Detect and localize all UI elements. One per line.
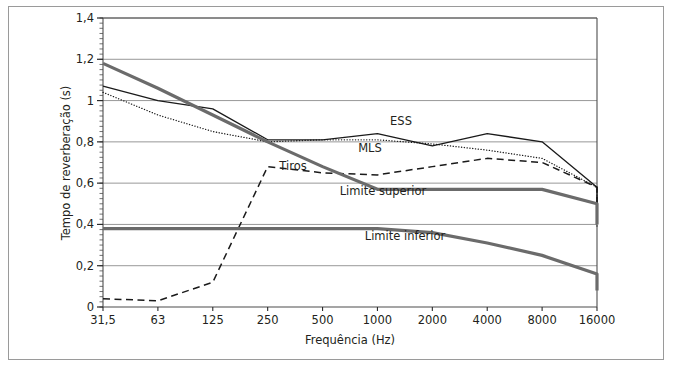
x-tick-label: 500 xyxy=(312,313,334,327)
chart-svg: 00,20,40,60,811,21,4 31,5631252505001000… xyxy=(0,0,674,368)
series-annotations: ESSMLSTirosLimite superiorLimite inferio… xyxy=(278,114,445,243)
x-tick-label: 16000 xyxy=(579,313,616,327)
x-axis-tick-labels: 31,563125250500100020004000800016000 xyxy=(90,313,615,327)
x-tick-label: 2000 xyxy=(418,313,447,327)
x-tick-label: 31,5 xyxy=(90,313,116,327)
series-lines xyxy=(103,63,597,300)
reverberation-time-chart: 00,20,40,60,811,21,4 31,5631252505001000… xyxy=(0,0,674,368)
y-axis-tick-labels: 00,20,40,60,811,21,4 xyxy=(76,11,94,314)
x-tick-label: 125 xyxy=(202,313,224,327)
y-tick-label: 1 xyxy=(87,94,94,108)
y-tick-label: 0,8 xyxy=(76,135,94,149)
series-line-limite-superior xyxy=(103,63,597,224)
x-tick-label: 8000 xyxy=(527,313,556,327)
series-label-tiros: Tiros xyxy=(278,159,306,173)
series-line-limite-inferior xyxy=(103,229,597,291)
series-label-limite-superior: Limite superior xyxy=(340,184,427,198)
y-tick-label: 0 xyxy=(87,300,94,314)
x-tick-label: 1000 xyxy=(363,313,392,327)
x-axis-ticks xyxy=(103,307,597,311)
y-axis-title: Tempo de reverberação (s) xyxy=(59,86,73,242)
x-tick-label: 250 xyxy=(257,313,279,327)
y-tick-label: 1,2 xyxy=(76,52,94,66)
y-tick-label: 0,4 xyxy=(76,217,94,231)
series-label-ess: ESS xyxy=(390,114,412,128)
series-label-mls: MLS xyxy=(358,141,382,155)
figure-container: 00,20,40,60,811,21,4 31,5631252505001000… xyxy=(0,0,674,368)
y-tick-label: 0,2 xyxy=(76,259,94,273)
y-tick-label: 1,4 xyxy=(76,11,94,25)
y-tick-label: 0,6 xyxy=(76,176,94,190)
plot-area-border xyxy=(103,18,597,307)
series-label-limite-inferior: Limite inferior xyxy=(365,229,446,243)
series-line-ess xyxy=(103,86,597,220)
x-tick-label: 63 xyxy=(151,313,166,327)
x-tick-label: 4000 xyxy=(473,313,502,327)
x-axis-title: Frequência (Hz) xyxy=(305,333,395,347)
y-axis-ticks xyxy=(97,18,103,307)
